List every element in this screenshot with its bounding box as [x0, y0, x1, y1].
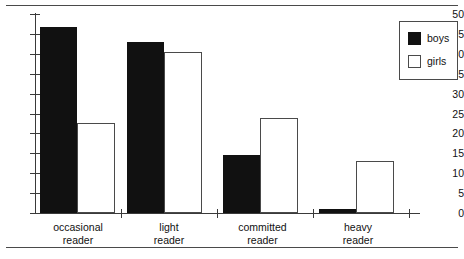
x-tick-mark-3: [313, 209, 314, 218]
y-tick-label-20: 20: [438, 128, 464, 139]
x-category-label-line2: reader: [33, 234, 123, 247]
bar-girls-committed-reader: [260, 118, 298, 214]
y-tick-mark-45: [30, 34, 40, 35]
x-category-label-line1: heavy: [344, 221, 372, 233]
plot-area: 50 45 40 35 30 25 20 15 10 5 0: [0, 0, 464, 259]
bar-boys-occasional-reader: [40, 27, 77, 213]
bar-girls-heavy-reader: [356, 161, 394, 213]
y-tick-mark-10: [30, 173, 40, 174]
x-category-label-heavy-reader: heavy reader: [312, 221, 404, 246]
y-tick-label-0: 0: [438, 208, 464, 219]
y-tick-mark-40: [30, 54, 40, 55]
y-tick-label-5: 5: [438, 188, 464, 199]
y-tick-mark-20: [30, 133, 40, 134]
y-tick-mark-35: [30, 74, 40, 75]
x-category-label-occasional-reader: occasional reader: [33, 221, 123, 246]
y-tick-label-15: 15: [438, 148, 464, 159]
legend-entry-boys: boys: [408, 32, 449, 45]
x-category-label-line1: committed: [238, 221, 286, 233]
y-tick-label-30: 30: [438, 89, 464, 100]
x-category-label-light-reader: light reader: [124, 221, 214, 246]
x-category-label-line2: reader: [215, 234, 310, 247]
x-tick-mark-2: [217, 209, 218, 218]
legend-label-girls: girls: [427, 56, 446, 67]
bar-girls-light-reader: [164, 52, 202, 213]
legend-swatch-boys-icon: [408, 32, 421, 45]
x-category-label-line2: reader: [124, 234, 214, 247]
bar-boys-heavy-reader: [319, 209, 356, 213]
x-axis-line: [35, 213, 420, 214]
x-category-label-committed-reader: committed reader: [215, 221, 310, 246]
bar-boys-committed-reader: [223, 155, 260, 213]
y-tick-mark-50: [30, 14, 40, 15]
y-tick-mark-5: [30, 193, 40, 194]
legend-swatch-girls-icon: [408, 55, 421, 68]
y-tick-mark-30: [30, 94, 40, 95]
y-tick-mark-0: [30, 213, 40, 214]
y-tick-label-10: 10: [438, 168, 464, 179]
x-tick-mark-4: [409, 209, 410, 218]
x-category-label-line1: light: [159, 221, 178, 233]
bar-boys-light-reader: [127, 42, 164, 213]
y-tick-mark-15: [30, 153, 40, 154]
x-category-label-line1: occasional: [53, 221, 103, 233]
bar-chart-figure: 50 45 40 35 30 25 20 15 10 5 0: [0, 0, 464, 259]
bar-girls-occasional-reader: [77, 123, 115, 213]
x-tick-mark-1: [121, 209, 122, 218]
y-tick-label-25: 25: [438, 109, 464, 120]
legend: boys girls: [399, 21, 458, 80]
x-category-label-line2: reader: [312, 234, 404, 247]
y-tick-label-50: 50: [438, 9, 464, 20]
legend-entry-girls: girls: [408, 55, 446, 68]
y-tick-mark-25: [30, 114, 40, 115]
legend-label-boys: boys: [427, 33, 449, 44]
